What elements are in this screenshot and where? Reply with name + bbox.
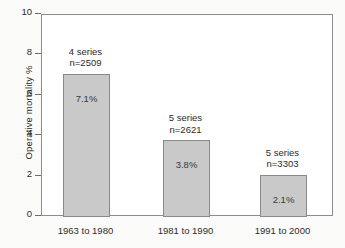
y-axis-tick-label: 4 (27, 128, 32, 138)
x-axis-tick-label: 1991 to 2000 (223, 225, 343, 236)
bar: 3.8% (163, 140, 210, 217)
bar-value-label: 3.8% (164, 159, 209, 170)
bar-annotation-series: 5 series (233, 147, 333, 159)
bar-value-label: 2.1% (261, 194, 306, 205)
bar-chart-figure: Operative mortality % 1086420 7.1%3.8%2.… (0, 0, 345, 248)
bar-annotation: 5 seriesn=3303 (233, 147, 333, 170)
bar-annotation-n: n=2509 (36, 57, 136, 69)
y-axis-tick-label: 0 (27, 209, 32, 219)
bar-annotation-n: n=3303 (233, 158, 333, 170)
bar-annotation-series: 5 series (136, 112, 236, 124)
y-axis-tick-label: 6 (27, 88, 32, 98)
bar-annotation-series: 4 series (36, 46, 136, 58)
bar-annotation: 4 seriesn=2509 (36, 46, 136, 69)
bar-annotation-n: n=2621 (136, 124, 236, 136)
bar-annotation: 5 seriesn=2621 (136, 112, 236, 135)
y-axis-tick-label: 10 (21, 7, 32, 17)
bar: 7.1% (63, 74, 110, 217)
y-axis-tick-label: 8 (27, 47, 32, 57)
y-axis-tick-label: 2 (27, 169, 32, 179)
bar: 2.1% (260, 175, 307, 217)
bar-value-label: 7.1% (64, 93, 109, 104)
